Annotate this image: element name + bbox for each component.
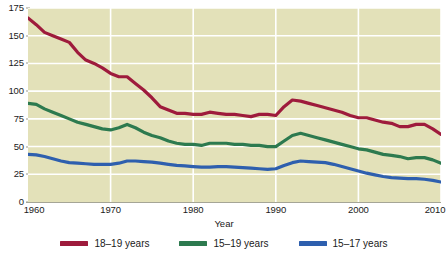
x-tick-label: 1980 bbox=[183, 204, 204, 215]
x-tick-label: 2010 bbox=[425, 204, 446, 215]
y-tick-label: 100 bbox=[8, 86, 24, 96]
y-tick-label: 25 bbox=[14, 169, 24, 179]
plot-canvas bbox=[28, 8, 441, 202]
legend-item-label: 15–19 years bbox=[213, 238, 268, 250]
legend-item-label: 18–19 years bbox=[94, 238, 149, 250]
y-tick-label: 50 bbox=[14, 142, 24, 152]
series-line-2 bbox=[28, 103, 441, 163]
legend-swatch-icon bbox=[60, 241, 88, 246]
y-tick-label: 125 bbox=[8, 58, 24, 68]
cropped-title-remnant bbox=[0, 0, 448, 3]
x-axis-title: Year bbox=[0, 218, 448, 229]
x-axis: 196019701980199020002010 bbox=[0, 204, 448, 218]
y-tick-label: 175 bbox=[8, 3, 24, 13]
x-tick-label: 1970 bbox=[100, 204, 121, 215]
legend: 18–19 years15–19 years15–17 years bbox=[0, 234, 448, 253]
x-tick-label: 2000 bbox=[348, 204, 369, 215]
legend-item-1[interactable]: 18–19 years bbox=[60, 238, 149, 250]
legend-item-2[interactable]: 15–19 years bbox=[179, 238, 268, 250]
legend-item-3[interactable]: 15–17 years bbox=[299, 238, 388, 250]
y-axis: 0255075100125150175 bbox=[0, 0, 28, 210]
birth-rate-line-chart: 0255075100125150175 19601970198019902000… bbox=[0, 0, 448, 253]
series-line-3 bbox=[28, 154, 441, 182]
gridlines bbox=[28, 8, 441, 202]
x-tick-label: 1960 bbox=[24, 204, 45, 215]
data-series-group bbox=[28, 18, 441, 182]
plot-region bbox=[28, 8, 441, 202]
legend-swatch-icon bbox=[179, 241, 207, 246]
y-tick-label: 75 bbox=[14, 114, 24, 124]
y-tick-label: 150 bbox=[8, 31, 24, 41]
legend-swatch-icon bbox=[299, 241, 327, 246]
legend-item-label: 15–17 years bbox=[333, 238, 388, 250]
x-tick-label: 1990 bbox=[265, 204, 286, 215]
